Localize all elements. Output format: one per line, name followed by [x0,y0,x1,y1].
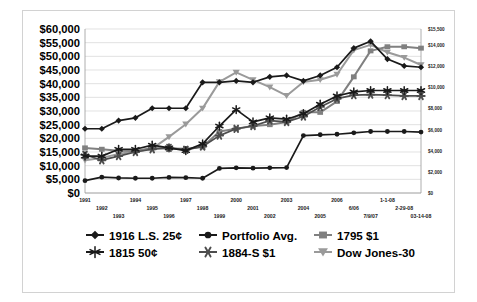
y-axis-right-tick-label: $6,000 [428,128,442,133]
y-axis-left-tick-label: $35,000 [40,91,80,103]
y-axis-left-tick-label: $55,000 [40,37,80,49]
y-axis-left-tick-label: $50,000 [40,50,80,62]
data-point-marker [83,178,88,183]
data-point-marker [205,232,212,239]
x-axis-tick-label: 2001 [247,205,259,211]
legend-label: 1815 50¢ [109,246,158,259]
y-axis-left-tick-label: $25,000 [40,119,80,131]
x-axis-tick-label: 2000 [230,197,242,203]
y-axis-right-tick-label: $10,000 [428,85,445,90]
x-axis-tick-label: 1992 [96,205,108,211]
y-axis-left-tick-label: $5,000 [46,173,80,185]
data-point-marker [351,130,356,135]
y-axis-left-tick-label: $20,000 [40,132,80,144]
data-point-marker [351,74,357,79]
data-point-marker [183,175,188,180]
y-axis-left-tick-label: $30,000 [40,105,80,117]
y-axis-left-tick-label: $10,000 [40,160,80,172]
data-point-marker [401,44,407,49]
x-axis-tick-label: 6/06 [349,205,359,211]
data-point-marker [319,232,327,239]
x-axis-tick-label: 2004 [298,205,310,211]
x-axis-tick-label: 1998 [197,205,209,211]
data-point-marker [301,133,306,138]
x-axis-tick-label: 1999 [214,213,226,219]
data-point-marker [418,46,424,51]
data-point-marker [284,165,289,170]
data-point-marker [99,175,104,180]
y-axis-right-tick-label: $0 [428,191,434,196]
x-axis-tick-label: 2-29-08 [395,205,413,211]
legend-item-1884-s-1[interactable]: 1884-S $1 [199,246,276,259]
x-axis-tick-label: 1993 [113,213,125,219]
y-axis-left-tick-label: $40,000 [40,78,80,90]
x-axis-tick-label: 1994 [130,197,142,203]
x-axis-tick-label: 1997 [180,197,192,203]
y-axis-left: $60,000$55,000$50,000$45,000$40,000$35,0… [40,23,80,199]
legend-label: Dow Jones-30 [337,246,415,259]
y-axis-left-tick-label: $15,000 [40,146,80,158]
data-point-marker [385,44,391,49]
x-axis-tick-label: 7/9/07 [363,213,378,219]
data-point-marker [116,176,121,181]
data-point-marker [385,129,390,134]
legend-label: 1884-S $1 [222,246,276,259]
y-axis-right-tick-label: $2,000 [428,170,442,175]
data-point-marker [251,166,256,171]
y-axis-right-tick-label: $4,000 [428,149,442,154]
data-point-marker [82,145,88,150]
data-point-marker [200,176,205,181]
data-point-marker [167,175,172,180]
x-axis-tick-label: 2002 [264,213,276,219]
portfolio-performance-line-chart: $60,000$55,000$50,000$45,000$40,000$35,0… [23,11,454,292]
data-point-marker [335,132,340,137]
y-axis-right-tick-label: $8,000 [428,106,442,111]
data-point-marker [402,129,407,134]
x-axis-tick-label: 1995 [146,205,158,211]
x-axis-tick-label: 2006 [331,197,343,203]
y-axis-right-tick-label: $15,500 [428,27,445,32]
data-point-marker [133,176,138,181]
y-axis-left-tick-label: $60,000 [40,23,80,35]
x-axis-tick-label: 1-1-08 [380,197,395,203]
legend-label: 1916 L.S. 25¢ [109,229,182,242]
data-point-marker [368,48,374,53]
data-point-marker [99,147,105,152]
y-axis-left-tick-label: $45,000 [40,64,80,76]
y-axis-right-tick-label: $14,000 [428,43,445,48]
chart-page: $60,000$55,000$50,000$45,000$40,000$35,0… [0,0,477,302]
legend-label: Portfolio Avg. [222,229,297,242]
chart-frame: $60,000$55,000$50,000$45,000$40,000$35,0… [22,10,455,293]
x-axis-tick-label: 2003 [281,197,293,203]
y-axis-left-tick-label: $0 [68,187,80,199]
x-axis-tick-label: 1996 [163,213,175,219]
data-point-marker [234,165,239,170]
x-axis-tick-label: 2005 [314,213,326,219]
x-axis-tick-label: 03-14-08 [411,213,432,219]
data-point-marker [150,176,155,181]
x-axis-tick-label: 1991 [79,197,91,203]
legend-label: 1795 $1 [337,229,379,242]
data-point-marker [217,166,222,171]
data-point-marker [318,132,323,137]
data-point-marker [368,129,373,134]
y-axis-right-tick-label: $12,000 [428,64,445,69]
data-point-marker [419,130,424,135]
data-point-marker [267,165,272,170]
